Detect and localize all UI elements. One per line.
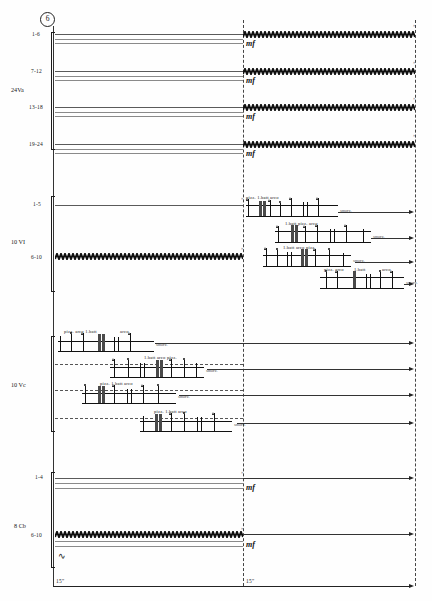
duration-right-label: 15" bbox=[246, 578, 254, 584]
dynamic-mf: mf bbox=[246, 39, 255, 48]
note-cluster: 1.batt pizz. arco smorz. bbox=[275, 222, 375, 244]
duration-left-label: 15" bbox=[56, 578, 64, 584]
staff-line bbox=[55, 488, 243, 489]
staff-line bbox=[55, 76, 243, 77]
trill-line bbox=[243, 141, 415, 148]
staff-line bbox=[55, 144, 243, 145]
trill-symbol: ∿ bbox=[58, 551, 65, 561]
note-cluster: 1.batt arco pizz. smorz. bbox=[110, 356, 210, 378]
instrument-label-10vi: 10 VI bbox=[11, 238, 25, 245]
staff-label-13-18: 13-18 bbox=[29, 104, 43, 110]
grid-tick: × bbox=[241, 470, 243, 475]
sustain-arrow bbox=[355, 262, 410, 263]
trill-line bbox=[243, 31, 415, 38]
instrument-label-24va: 24Va bbox=[11, 86, 24, 93]
staff-line bbox=[55, 34, 243, 35]
staff-line bbox=[55, 149, 243, 150]
articulation-label: 1.batt arco pizz. bbox=[283, 245, 316, 250]
brace-10vi bbox=[51, 196, 55, 292]
trill-line bbox=[55, 253, 243, 260]
score-page: 6 24Va 1-6 7-12 13-18 19-24 × mf × mf × … bbox=[0, 0, 432, 601]
staff-label-6-10-cb: 6-10 bbox=[31, 532, 42, 538]
grid-tick: × bbox=[241, 526, 243, 531]
sustain-arrow bbox=[155, 343, 410, 344]
staff-line bbox=[55, 71, 243, 72]
arrowhead bbox=[409, 367, 414, 371]
instrument-label-8cb: 8 Cb bbox=[14, 522, 26, 529]
staff-label-1-6: 1-6 bbox=[32, 31, 40, 37]
staff-label-6-10: 6-10 bbox=[31, 254, 42, 260]
staff-line bbox=[55, 478, 243, 479]
staff-line bbox=[55, 116, 243, 117]
sustain-arrow bbox=[237, 423, 410, 424]
arrowhead bbox=[409, 393, 414, 397]
grid-tick: × bbox=[413, 60, 415, 65]
arrowhead bbox=[409, 421, 414, 425]
trill-line bbox=[55, 531, 243, 538]
staff-line bbox=[55, 107, 243, 108]
duration-rule bbox=[53, 586, 410, 587]
grid-tick: × bbox=[241, 246, 243, 251]
grid-tick: × bbox=[241, 196, 243, 201]
dynamic-mf: mf bbox=[246, 76, 255, 85]
grid-tick: × bbox=[413, 23, 415, 28]
arrowhead bbox=[409, 260, 414, 264]
dynamic-mf: mf bbox=[246, 483, 255, 492]
sustain-arrow bbox=[243, 534, 410, 535]
articulation-label: 1.batt pizz. arco bbox=[285, 221, 318, 226]
sustain-arrow bbox=[338, 212, 410, 213]
brace-24va bbox=[51, 32, 55, 150]
staff-line bbox=[55, 39, 243, 40]
articulation-label: pizz. 1.batt arco bbox=[246, 195, 279, 200]
note-cluster: pizz. 1.batt arco smorz. bbox=[82, 382, 182, 404]
grid-tick: × bbox=[413, 133, 415, 138]
staff-label-19-24: 19-24 bbox=[29, 141, 43, 147]
staff-label-1-5: 1-5 bbox=[33, 201, 41, 207]
staff-line bbox=[55, 43, 243, 44]
arrowhead bbox=[409, 236, 414, 240]
note-cluster: pizz. arco 1.batt arco smorz. bbox=[320, 268, 408, 290]
note-cluster: pizz. 1.batt arco smorz. bbox=[140, 410, 240, 432]
arrowhead bbox=[409, 210, 414, 214]
staff-line bbox=[55, 483, 243, 484]
staff-line bbox=[55, 541, 243, 542]
rehearsal-mark: 6 bbox=[40, 12, 55, 27]
brace-8cb bbox=[51, 472, 55, 568]
trill-line bbox=[243, 104, 415, 111]
time-grid-right bbox=[415, 20, 416, 586]
arrowhead bbox=[409, 532, 414, 536]
staff-line bbox=[55, 80, 243, 81]
trill-line bbox=[243, 68, 415, 75]
arrowhead bbox=[409, 476, 414, 480]
sustain-arrow bbox=[207, 369, 410, 370]
staff-line bbox=[55, 112, 243, 113]
sustain-arrow bbox=[243, 478, 410, 479]
note-cluster: pizz. 1.batt arco smorz. bbox=[246, 196, 342, 218]
instrument-label-10vc: 10 Vc bbox=[11, 381, 26, 388]
staff-label-1-4: 1-4 bbox=[35, 474, 43, 480]
arrowhead bbox=[409, 584, 414, 588]
note-cluster: 1.batt arco pizz. smorz. bbox=[263, 246, 359, 268]
sustain-arrow bbox=[179, 395, 410, 396]
dynamic-mf: mf bbox=[246, 149, 255, 158]
note-cluster: pizz. arco 1.batt arco smorz. bbox=[58, 330, 158, 352]
sustain-arrow bbox=[371, 238, 410, 239]
staff-line bbox=[55, 546, 243, 547]
dynamic-mf: mf bbox=[246, 112, 255, 121]
staff-label-7-12: 7-12 bbox=[31, 68, 42, 74]
grid-tick: × bbox=[413, 96, 415, 101]
arrowhead bbox=[409, 341, 414, 345]
staff-line bbox=[55, 205, 243, 206]
dynamic-mf: mf bbox=[246, 540, 255, 549]
staff-line bbox=[55, 153, 243, 154]
arrowhead bbox=[409, 282, 414, 286]
